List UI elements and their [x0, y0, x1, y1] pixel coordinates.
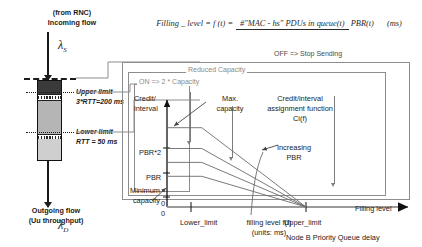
- x-tick-label-lower-limit: Lower_limit: [180, 218, 217, 227]
- curve-family: [167, 128, 306, 207]
- x-axis-secondary-label: Node B Priority Queue delay: [286, 233, 380, 242]
- state-label-reduced: Reduced Capacity: [186, 66, 247, 74]
- outgoing-flow-arrow: [47, 161, 49, 205]
- y-tick-label-pbr2: PBR*2: [139, 148, 161, 157]
- max-capacity-annotation: Max. capacity: [207, 94, 253, 113]
- chart-title-annotation: Credit/interval assignment function Ci(f…: [255, 94, 345, 123]
- y-tick-label-minimum-capacity: Minimum capacity: [110, 186, 160, 205]
- y-axis-label: Credit/ interval: [134, 94, 158, 113]
- formula-numerator: #"MAC - hs" PDUs in queue(t): [236, 19, 349, 30]
- formula-lhs: Filling _ level = f (t) =: [156, 19, 233, 28]
- lambda-source-symbol: λS: [58, 38, 67, 54]
- incoming-flow-label: (from RNC) Incoming flow: [24, 8, 120, 27]
- y-tick-label-zero: 0: [161, 199, 165, 208]
- increasing-pbr-annotation: Increasing PBR: [265, 143, 323, 163]
- outgoing-flow-label: Outgoing flow (Uu throughput): [6, 206, 106, 225]
- curve-3: [167, 162, 306, 207]
- formula-denominator: PBR(t): [351, 18, 374, 28]
- increasing-pbr-sweep: [251, 152, 263, 215]
- x-axis-arrow-label: Filling level: [355, 204, 392, 213]
- state-label-off: OFF => Stop Sending: [272, 50, 344, 58]
- max-capacity-pointer: [174, 102, 206, 126]
- x-tick-label-zero: 0: [161, 209, 165, 218]
- formula-unit: (ms): [387, 19, 402, 28]
- formula-fraction: #"MAC - hs" PDUs in queue(t) PBR(t): [236, 19, 374, 28]
- lambda-drain-symbol: λD: [58, 218, 68, 234]
- y-tick-label-pbr: PBR: [146, 173, 161, 182]
- filling-level-formula: Filling _ level = f (t) = #"MAC - hs" PD…: [143, 6, 415, 40]
